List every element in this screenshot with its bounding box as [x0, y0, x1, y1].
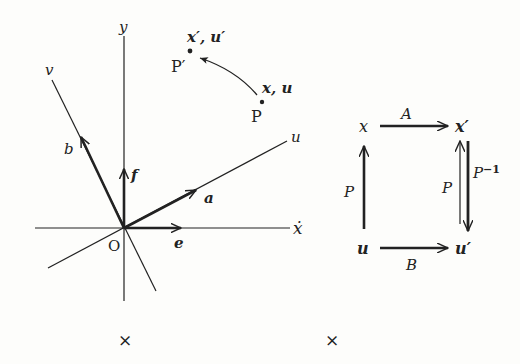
vector-a-label: a [204, 189, 214, 207]
node-x-prime: x′ [454, 117, 470, 136]
figure-canvas: y ẋ v u O b f a e x′, u′ P′ x, u P x x′ … [0, 0, 520, 364]
marker-left: × [118, 330, 132, 350]
node-x: x [359, 117, 368, 136]
arrow-b-label: B [405, 256, 417, 274]
origin-label: O [108, 237, 120, 255]
y-axis-label: y [118, 18, 128, 36]
node-u: u [357, 239, 369, 258]
p-label: P [251, 107, 262, 126]
arrow-p-inverse-label: P−1 [472, 163, 500, 182]
point-p-prime [188, 49, 193, 54]
commutative-diagram: x x′ u u′ A B P P P−1 [343, 105, 500, 274]
vector-e-label: e [174, 234, 184, 252]
arrow-p-right-label: P [441, 179, 453, 197]
arrow-p-left-label: P [343, 183, 355, 201]
arrow-p-inverse-superscript: −1 [483, 163, 500, 176]
vector-b-label: b [64, 140, 74, 158]
p-prime-label: P′ [171, 57, 186, 76]
node-u-prime: u′ [455, 239, 472, 258]
vector-f-label: f [130, 166, 140, 184]
v-axis-label: v [45, 61, 54, 79]
x-axis-label: ẋ [293, 218, 303, 238]
point-p [260, 100, 264, 104]
vector-b [81, 137, 124, 228]
point-mapping: x′, u′ P′ x, u P [171, 28, 292, 126]
mapping-arrow [200, 58, 257, 95]
p-prime-coords: x′, u′ [186, 28, 225, 46]
p-coords: x, u [261, 79, 292, 97]
u-axis-label: u [291, 128, 301, 146]
vector-a [124, 190, 196, 228]
coordinate-system: y ẋ v u O b f a e [35, 18, 303, 301]
marker-right: × [325, 330, 339, 350]
arrow-a-label: A [399, 105, 412, 123]
